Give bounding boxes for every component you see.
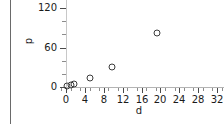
y-tick-minor — [62, 21, 66, 22]
x-tick-mark — [179, 88, 180, 93]
x-tick-minor — [61, 88, 62, 91]
x-tick-minor — [184, 88, 185, 91]
y-tick-mark — [60, 8, 66, 9]
x-tick-mark — [217, 88, 218, 93]
x-tick-minor — [99, 88, 100, 91]
x-tick-minor — [175, 88, 176, 91]
chart-screenshot: 060120 048121620242832 d p — [0, 0, 224, 124]
x-tick-minor — [90, 88, 91, 91]
y-axis-title: p — [24, 38, 34, 44]
data-point-marker — [153, 30, 160, 37]
data-point-marker — [86, 75, 93, 82]
y-tick-minor — [62, 61, 66, 62]
y-tick-minor — [62, 34, 66, 35]
x-tick-label: 12 — [117, 95, 130, 105]
x-tick-minor — [137, 88, 138, 91]
x-tick-mark — [123, 88, 124, 93]
x-tick-label: 24 — [173, 95, 186, 105]
x-tick-label: 32 — [211, 95, 224, 105]
scatter-plot: 060120 048121620242832 d p — [0, 0, 224, 124]
x-tick-label: 16 — [136, 95, 149, 105]
x-tick-minor — [80, 88, 81, 91]
data-point-marker — [70, 81, 77, 88]
x-tick-minor — [203, 88, 204, 91]
x-tick-label: 8 — [101, 95, 107, 105]
x-tick-mark — [142, 88, 143, 93]
x-tick-minor — [156, 88, 157, 91]
x-tick-minor — [222, 88, 223, 91]
x-tick-mark — [198, 88, 199, 93]
x-tick-label: 28 — [192, 95, 205, 105]
data-point-marker — [109, 64, 116, 71]
y-tick-minor — [62, 74, 66, 75]
y-tick-label: 0 — [51, 82, 57, 92]
x-tick-minor — [165, 88, 166, 91]
x-tick-mark — [85, 88, 86, 93]
x-tick-label: 0 — [63, 95, 69, 105]
x-tick-label: 4 — [82, 95, 88, 105]
x-tick-minor — [127, 88, 128, 91]
x-tick-mark — [104, 88, 105, 93]
y-tick-mark — [60, 48, 66, 49]
y-axis-line — [66, 0, 67, 88]
x-tick-minor — [146, 88, 147, 91]
x-tick-mark — [160, 88, 161, 93]
x-axis-title: d — [136, 106, 142, 116]
y-tick-label: 60 — [44, 43, 57, 53]
x-tick-label: 20 — [154, 95, 167, 105]
x-tick-minor — [118, 88, 119, 91]
x-tick-minor — [193, 88, 194, 91]
x-tick-minor — [108, 88, 109, 91]
y-tick-label: 120 — [38, 3, 57, 13]
x-tick-minor — [212, 88, 213, 91]
